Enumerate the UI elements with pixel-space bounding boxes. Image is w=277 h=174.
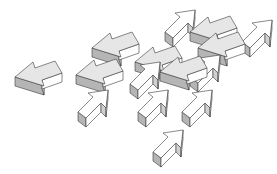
- arrow-up-right-icon: [78, 90, 108, 127]
- arrow-up-right-icon: [182, 90, 212, 127]
- arrow-up-right-icon: [242, 20, 272, 57]
- arrow-left-icon: [76, 59, 123, 93]
- arrow-left-icon: [15, 61, 62, 95]
- arrow-up-right-icon: [138, 90, 168, 127]
- arrow-up-right-icon: [153, 130, 183, 167]
- arrows-illustration: [0, 0, 277, 174]
- arrows-svg: [0, 0, 277, 174]
